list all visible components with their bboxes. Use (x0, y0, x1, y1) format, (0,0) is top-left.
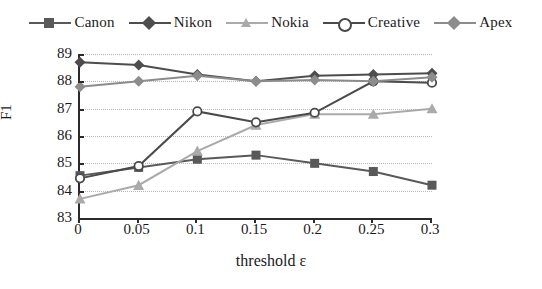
data-point-marker (252, 118, 260, 126)
legend-item-nikon[interactable]: Nikon (129, 14, 213, 31)
data-point-marker (133, 180, 144, 190)
data-point-marker (428, 181, 437, 190)
data-point-marker (134, 162, 142, 170)
legend-item-label: Nikon (174, 14, 213, 31)
data-point-marker (75, 57, 86, 68)
legend-item-apex[interactable]: Apex (434, 14, 512, 31)
x-axis-tick-mark (137, 218, 139, 223)
x-axis-tick-mark (313, 218, 315, 223)
series-creative (76, 77, 436, 182)
data-point-marker (310, 159, 319, 168)
data-point-marker (368, 76, 379, 87)
y-axis-tick-label: 84 (32, 183, 72, 198)
x-axis-tick-mark (254, 218, 256, 223)
y-axis-tick-label: 85 (32, 155, 72, 170)
legend-marker-circle-open-icon (323, 17, 365, 29)
data-point-marker (193, 155, 202, 164)
y-axis-tick-mark (78, 81, 84, 83)
y-axis-tick-label: 87 (32, 101, 72, 116)
x-axis-tick-labels: 00.050.10.150.20.250.3 (78, 222, 430, 244)
data-point-marker (310, 109, 318, 117)
data-point-marker (369, 167, 378, 176)
legend-marker (142, 15, 156, 29)
legend-marker-square-icon (29, 17, 71, 29)
y-axis-tick-mark (78, 163, 84, 165)
legend-marker (338, 18, 352, 32)
x-axis-tick-mark (430, 218, 432, 223)
legend-marker (241, 18, 251, 27)
x-axis-tick-label: 0.1 (172, 222, 218, 237)
series-line (80, 81, 432, 178)
data-point-marker (251, 76, 262, 87)
series-layer (80, 54, 432, 218)
chart-figure: CanonNikonNokiaCreativeApex F1 898887868… (0, 0, 542, 289)
y-axis-tick-mark (78, 54, 84, 56)
x-axis-tick-label: 0.3 (407, 222, 453, 237)
legend-marker-diamond-icon (434, 17, 476, 29)
x-axis-tick-label: 0.05 (114, 222, 160, 237)
data-point-marker (192, 70, 203, 81)
data-point-marker (193, 107, 201, 115)
legend-item-label: Apex (479, 14, 512, 31)
chart-legend: CanonNikonNokiaCreativeApex (0, 14, 542, 31)
data-point-marker (133, 76, 144, 87)
legend-item-canon[interactable]: Canon (29, 14, 114, 31)
legend-marker-triangle-icon (226, 17, 268, 29)
legend-item-label: Nokia (271, 14, 309, 31)
legend-item-nokia[interactable]: Nokia (226, 14, 309, 31)
y-axis-tick-mark (78, 136, 84, 138)
data-point-marker (76, 174, 84, 182)
legend-marker (447, 15, 461, 29)
y-axis-tick-mark (78, 109, 84, 111)
series-canon (76, 151, 437, 190)
legend-item-label: Creative (368, 14, 420, 31)
legend-item-label: Canon (74, 14, 114, 31)
x-axis-tick-mark (195, 218, 197, 223)
plot-area (78, 54, 432, 220)
data-point-marker (133, 59, 144, 70)
legend-marker-diamond-icon (129, 17, 171, 29)
legend-marker (44, 18, 54, 28)
y-axis-tick-label: 88 (32, 73, 72, 88)
y-axis-title: F1 (0, 104, 15, 120)
y-axis-tick-label: 86 (32, 128, 72, 143)
x-axis-tick-label: 0 (55, 222, 101, 237)
x-axis-tick-label: 0.25 (348, 222, 394, 237)
x-axis-tick-label: 0.15 (231, 222, 277, 237)
x-axis-title: threshold ε (0, 252, 542, 270)
x-axis-tick-mark (78, 218, 80, 223)
data-point-marker (192, 146, 203, 156)
y-axis-tick-mark (78, 191, 84, 193)
y-axis-tick-labels: 89888786858483 (28, 54, 72, 218)
series-line (80, 155, 432, 185)
x-axis-tick-label: 0.2 (290, 222, 336, 237)
data-point-marker (252, 151, 261, 160)
legend-item-creative[interactable]: Creative (323, 14, 420, 31)
x-axis-tick-mark (371, 218, 373, 223)
y-axis-tick-label: 89 (32, 46, 72, 61)
